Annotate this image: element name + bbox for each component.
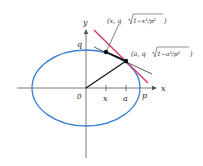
x-axis-label: x <box>161 84 166 93</box>
a-tick-label: a <box>123 94 128 103</box>
q-label: q <box>77 40 82 49</box>
svg-text:): ) <box>163 17 167 25</box>
origin-label: 0 <box>77 93 82 101</box>
x-tick-label: x <box>103 94 108 103</box>
label-leader-line <box>107 24 119 50</box>
y-axis-label: y <box>82 18 88 27</box>
svg-text:(x, q: (x, q <box>107 17 122 25</box>
chord-segment <box>106 52 126 61</box>
radius-line <box>86 61 126 88</box>
ellipse-tangent-diagram: y x 0 q p x a (x, q 1−x²/p² ) (a, q 1−a²… <box>0 0 203 166</box>
svg-text:(a, q: (a, q <box>131 50 146 58</box>
point-x <box>104 50 108 54</box>
svg-text:1−a²/p²: 1−a²/p² <box>157 50 181 58</box>
svg-text:1−x²/p²: 1−x²/p² <box>133 17 156 25</box>
point-a <box>124 59 128 63</box>
svg-text:): ) <box>189 50 193 58</box>
point-x-label: (x, q 1−x²/p² ) <box>107 14 167 25</box>
p-label: p <box>142 91 147 100</box>
point-a-label: (a, q 1−a²/p² ) <box>131 47 193 58</box>
